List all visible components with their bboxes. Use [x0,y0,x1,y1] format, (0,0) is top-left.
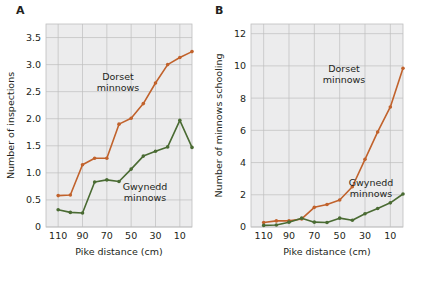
y-tick-label: 10 [234,60,246,71]
x-tick-label: 110 [49,230,67,241]
x-tick-label: 70 [101,230,113,241]
y-tick-label: 12 [234,28,246,39]
y-tick-label: 0.5 [26,194,41,205]
series-annotation: Dorset [102,71,134,82]
data-point [81,211,85,215]
data-point [117,180,121,184]
series-annotation: minnows [350,188,393,199]
x-axis-tick-labels: 1109070503010 [49,230,186,241]
data-point [351,218,355,222]
x-axis-tick-labels: 1109070503010 [255,230,397,241]
series-annotation: minnows [124,192,167,203]
data-point [142,154,146,158]
data-point [338,198,342,202]
series-annotation: minnows [97,82,140,93]
data-point [69,193,73,197]
data-point [376,130,380,134]
data-point [300,216,304,220]
data-point [389,105,393,109]
y-tick-label: 2.5 [26,86,41,97]
panel-a: A 00.51.01.52.02.53.03.51109070503010Pik… [0,0,211,285]
y-tick-label: 0 [240,221,246,232]
data-point [154,149,158,153]
y-tick-label: 3.5 [26,32,41,43]
data-point [363,212,367,216]
data-point [117,122,121,126]
x-axis-title: Pike distance (cm) [75,246,162,257]
x-tick-label: 10 [384,230,396,241]
data-point [56,194,60,198]
panel-b-label: B [215,4,224,17]
data-point [178,119,182,123]
panel-b-chart: 0246810121109070503010Pike distance (cm)… [211,0,422,285]
x-axis-title: Pike distance (cm) [283,246,370,257]
y-tick-label: 3.0 [26,59,41,70]
data-point [389,201,393,205]
data-point [363,158,367,162]
y-axis-tick-labels: 00.51.01.52.02.53.03.5 [26,32,41,232]
x-tick-label: 90 [76,230,88,241]
data-point [56,208,60,212]
panel-a-chart: 00.51.01.52.02.53.03.51109070503010Pike … [0,0,211,285]
data-point [166,145,170,149]
y-axis-tick-labels: 024681012 [234,28,246,232]
y-tick-label: 4 [240,157,246,168]
data-point [190,50,194,54]
x-tick-label: 50 [125,230,137,241]
x-tick-label: 110 [255,230,273,241]
data-point [166,63,170,67]
data-point [178,56,182,60]
data-point [129,167,133,171]
data-point [338,216,342,220]
data-point [376,207,380,211]
data-point [190,146,194,150]
x-tick-label: 30 [359,230,371,241]
x-tick-label: 30 [149,230,161,241]
data-point [105,178,109,182]
data-point [325,221,329,225]
data-point [313,220,317,224]
data-point [154,81,158,85]
data-point [275,223,279,227]
y-tick-label: 6 [240,125,246,136]
series-annotation: Dorset [328,63,360,74]
x-tick-label: 70 [308,230,320,241]
x-tick-label: 90 [283,230,295,241]
y-tick-label: 2.0 [26,113,41,124]
y-axis-title: Number of minnows schooling [213,54,224,198]
data-point [275,219,279,223]
data-point [93,156,97,160]
y-axis-title: Number of inspections [5,72,16,179]
series-annotation: Gwynedd [123,181,168,192]
y-tick-label: 1.0 [26,167,41,178]
data-point [262,224,266,228]
y-tick-label: 8 [240,93,246,104]
data-point [93,180,97,184]
data-point [325,203,329,207]
y-tick-label: 1.5 [26,140,41,151]
data-point [142,102,146,106]
figure-container: A 00.51.01.52.02.53.03.51109070503010Pik… [0,0,422,285]
data-point [401,192,405,196]
data-point [401,67,405,71]
x-tick-label: 50 [334,230,346,241]
data-point [81,163,85,167]
data-point [105,156,109,160]
data-point [313,206,317,210]
data-point [69,211,73,215]
panel-a-label: A [16,4,25,17]
series-annotation: minnows [323,74,366,85]
series-annotation: Gwynedd [349,177,394,188]
panel-b: B 0246810121109070503010Pike distance (c… [211,0,422,285]
y-tick-label: 2 [240,189,246,200]
data-point [129,116,133,120]
y-tick-label: 0 [35,221,41,232]
data-point [287,220,291,224]
x-tick-label: 10 [174,230,186,241]
